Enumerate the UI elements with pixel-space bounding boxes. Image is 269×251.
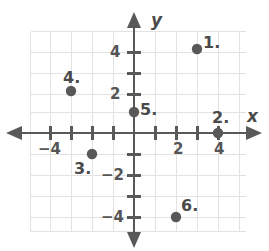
- data-point-label-5: 5.: [140, 102, 157, 118]
- x-axis-arrow-left: [6, 126, 22, 140]
- y-tick-label-neg4: −4: [101, 210, 124, 225]
- y-tick-label-neg2: −2: [101, 168, 124, 183]
- data-point-label-4: 4.: [63, 70, 80, 86]
- data-point-label-2: 2.: [212, 110, 229, 126]
- data-point-4: [66, 86, 76, 96]
- y-axis-arrow-down: [127, 232, 141, 248]
- x-tick-label-neg4: −4: [38, 142, 61, 157]
- data-point-6: [171, 212, 181, 222]
- y-tick-label-2: 2: [110, 87, 120, 102]
- data-point-label-3: 3.: [74, 161, 91, 177]
- y-axis-label: y: [151, 12, 162, 29]
- data-point-label-1: 1.: [203, 35, 220, 51]
- y-tick-label-4: 4: [110, 45, 120, 60]
- data-point-2: [213, 128, 223, 138]
- x-axis-label: x: [247, 108, 258, 125]
- data-point-5: [129, 107, 139, 117]
- y-axis-arrow-up: [127, 12, 141, 28]
- x-tick-label-2: 2: [173, 142, 183, 157]
- data-point-label-6: 6.: [181, 198, 198, 214]
- coordinate-plane-figure: y x −4 2 4 4 2 −2 −4 1. 2. 3. 4. 5. 6.: [0, 0, 269, 251]
- x-axis-arrow-right: [246, 126, 262, 140]
- data-point-1: [192, 44, 202, 54]
- data-point-3: [87, 149, 97, 159]
- x-tick-label-4: 4: [214, 142, 224, 157]
